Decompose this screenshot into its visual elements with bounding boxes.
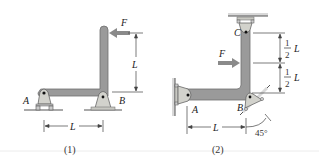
point-b-label: B bbox=[237, 102, 243, 113]
upper-dim-numerator: 1 bbox=[285, 38, 290, 48]
roller-icon bbox=[260, 97, 263, 100]
angle-label: 45° bbox=[255, 128, 268, 138]
point-c-label: C bbox=[234, 27, 241, 38]
pin-icon bbox=[102, 96, 105, 99]
force-arrow-f bbox=[109, 28, 130, 38]
lower-dim-denominator: 2 bbox=[285, 79, 290, 89]
figure-2-caption: (2) bbox=[212, 144, 224, 156]
pin-icon bbox=[42, 91, 45, 94]
l-member bbox=[38, 26, 108, 96]
upper-dim-denominator: 2 bbox=[285, 50, 290, 60]
pin-support-a bbox=[175, 84, 191, 105]
upper-dim-variable: L bbox=[293, 43, 300, 54]
force-label: F bbox=[120, 17, 128, 28]
angle-indicator bbox=[246, 114, 271, 127]
figure-1-caption: (1) bbox=[64, 144, 76, 156]
roller-icon bbox=[49, 106, 53, 110]
roller-icon bbox=[36, 106, 40, 110]
vertical-dimension bbox=[112, 33, 143, 92]
force-label: F bbox=[218, 48, 226, 59]
vertical-dimensions bbox=[252, 33, 285, 93]
horizontal-dim-label: L bbox=[212, 122, 219, 133]
pin-icon bbox=[249, 96, 252, 99]
point-a-label: A bbox=[191, 104, 199, 115]
diagram-canvas: F L A B L (1) bbox=[0, 0, 319, 165]
figure-2: F 1 2 L 1 2 L A B C bbox=[172, 13, 300, 156]
point-a-label: A bbox=[22, 95, 30, 106]
horizontal-dim-label: L bbox=[69, 121, 76, 132]
point-b-label: B bbox=[119, 95, 125, 106]
lower-dim-variable: L bbox=[293, 72, 300, 83]
force-arrow-f bbox=[218, 58, 240, 68]
pin-icon bbox=[245, 31, 248, 34]
figure-1: F L A B L (1) bbox=[22, 17, 143, 156]
roller-icon bbox=[244, 107, 247, 110]
lower-dim-numerator: 1 bbox=[285, 67, 290, 77]
pin-icon bbox=[187, 94, 190, 97]
vertical-dim-label: L bbox=[131, 59, 138, 70]
